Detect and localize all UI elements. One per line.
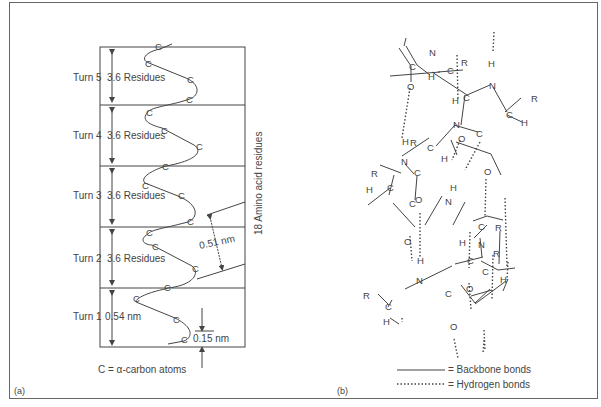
carbon-atom: C (186, 94, 193, 105)
nitrogen-atom: N (416, 275, 423, 286)
hydrogen-atom: H (452, 95, 459, 106)
oxygen-atom: O (404, 236, 411, 247)
nitrogen-atom: N (489, 80, 496, 91)
carbon-atom: C (181, 334, 188, 345)
residues-label: 3.6 Residues (107, 190, 165, 201)
nitrogen-atom: N (478, 239, 485, 250)
carbon-atom: C (196, 141, 203, 152)
residues-label: 3.6 Residues (107, 130, 165, 141)
carbon-atom: C (476, 128, 483, 139)
carbon-atom: C (414, 167, 421, 178)
figure-canvas: C C C C C C C C C C C C C C C C C C Turn… (0, 0, 601, 407)
carbon-atom: C (173, 314, 180, 325)
hydrogen-atom: H (428, 71, 435, 82)
turn-label: Turn 4 (73, 130, 102, 141)
carbon-atom: C (506, 109, 513, 120)
hydrogen-atom: H (417, 255, 424, 266)
nitrogen-atom: N (453, 119, 460, 130)
hydrogen-atom: H (488, 58, 495, 69)
hydrogen-atom: H (459, 237, 466, 248)
carbon-atom: C (146, 107, 153, 118)
carbon-atom: C (192, 263, 199, 274)
backbone-legend-label: = Backbone bonds (448, 364, 531, 375)
carbon-atom: C (409, 61, 416, 72)
oxygen-atom: O (415, 194, 422, 205)
r-group: R (493, 248, 500, 259)
legend: = Backbone bonds = Hydrogen bonds (397, 364, 531, 390)
r-group: R (461, 57, 468, 68)
side-label: 18 Amino acid residues (253, 132, 264, 235)
pitch-line (197, 264, 245, 279)
hydrogen-atom: H (383, 316, 390, 327)
pitch-line (207, 202, 245, 215)
hydrogen-atom: H (366, 184, 373, 195)
r-group: R (410, 137, 417, 148)
panel-b-label: (b) (337, 386, 348, 396)
oxygen-atom: O (407, 81, 414, 92)
carbon-atom: C (478, 221, 485, 232)
carbon-atom: C (409, 198, 416, 209)
hbond-legend-label: = Hydrogen bonds (448, 379, 530, 390)
carbon-atom: C (387, 182, 394, 193)
figure: C C C C C C C C C C C C C C C C C C Turn… (0, 0, 601, 407)
carbon-atom: C (146, 227, 153, 238)
turn-label: Turn 3 (73, 190, 102, 201)
oxygen-atom: O (450, 321, 457, 332)
r-group: R (363, 290, 370, 301)
nitrogen-atom: N (429, 47, 436, 58)
oxygen-atom: O (484, 166, 491, 177)
carbon-atom: C (145, 58, 152, 69)
nitrogen-atom: N (401, 156, 408, 167)
carbon-atom: C (187, 74, 194, 85)
carbon-atom: C (467, 255, 474, 266)
carbon-atom: C (162, 161, 169, 172)
oxygen-atom: O (466, 283, 473, 294)
carbon-atom: C (164, 282, 171, 293)
carbon-atom: C (463, 92, 470, 103)
turn-label: Turn 2 (73, 253, 102, 264)
carbon-atom: C (133, 293, 140, 304)
turn-label: Turn 1 (73, 311, 102, 322)
r-group: R (531, 93, 538, 104)
oxygen-atom: O (458, 133, 465, 144)
carbon-atom: C (187, 216, 194, 227)
turn-label: Turn 5 (73, 72, 102, 83)
carbon-atom: C (178, 190, 185, 201)
residues-label: 3.6 Residues (107, 253, 165, 264)
carbon-atom: C (447, 65, 454, 76)
hydrogen-atom: H (521, 117, 528, 128)
atom-key: C = α-carbon atoms (98, 364, 186, 375)
hydrogen-atom: H (441, 153, 448, 164)
nitrogen-atom: N (445, 196, 452, 207)
residues-label: 3.6 Residues (107, 72, 165, 83)
turn-height-label: 0.54 nm (105, 311, 141, 322)
carbon-atom: C (427, 142, 434, 153)
carbon-atom: C (152, 241, 159, 252)
r-group: R (371, 168, 378, 179)
carbon-atom: C (155, 41, 162, 52)
carbon-atom: C (445, 288, 452, 299)
hydrogen-atom: H (402, 136, 409, 147)
rise-label: 0.15 nm (193, 333, 229, 344)
hydrogen-atom: H (500, 274, 507, 285)
hydrogen-atom: H (450, 182, 457, 193)
panel-a-label: (a) (14, 386, 25, 396)
carbon-atom: C (385, 301, 392, 312)
carbon-atom: C (482, 266, 489, 277)
hbond-atoms: N C O C R H H N C R C H H N C O O H R C … (363, 47, 538, 332)
r-group: R (495, 222, 502, 233)
